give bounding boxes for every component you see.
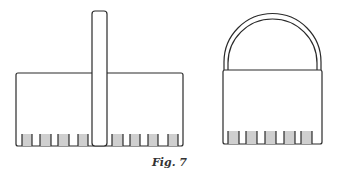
right-basket-arch-outer (224, 13, 321, 70)
right-basket-arch-inner (228, 19, 317, 70)
slat (301, 131, 312, 144)
left-basket (16, 11, 183, 146)
figure-7 (0, 0, 338, 180)
slat (40, 134, 51, 146)
figure-caption: Fig. 7 (152, 156, 187, 169)
slat (112, 134, 123, 146)
left-basket-handle (92, 11, 107, 146)
right-basket (223, 13, 322, 144)
slat (58, 134, 69, 146)
slat (228, 131, 239, 144)
slat (78, 134, 88, 146)
slat (168, 134, 178, 146)
slat (265, 131, 276, 144)
slat (22, 134, 32, 146)
slat (246, 131, 257, 144)
slat (130, 134, 140, 146)
slat (148, 134, 158, 146)
slat (284, 131, 295, 144)
